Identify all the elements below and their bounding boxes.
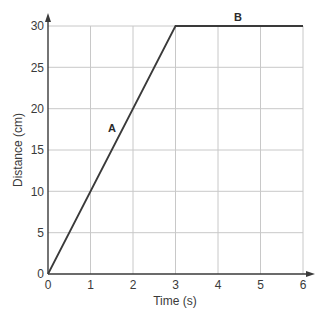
y-tick-label: 25: [31, 61, 45, 75]
y-tick-label: 0: [37, 267, 44, 281]
x-tick-label: 6: [300, 278, 307, 292]
x-tick-label: 0: [45, 278, 52, 292]
x-axis-arrow-icon: [306, 271, 315, 277]
y-tick-labels: 0 5 10 15 20 25 30: [31, 19, 45, 281]
y-axis-arrow-icon: [45, 13, 51, 22]
x-tick-label: 1: [87, 278, 94, 292]
y-axis-title: Distance (cm): [11, 113, 25, 187]
axes: [45, 13, 315, 277]
segment-label-a: A: [108, 122, 116, 134]
x-tick-label: 4: [215, 278, 222, 292]
y-tick-label: 30: [31, 19, 45, 33]
segment-label-b: B: [234, 11, 242, 23]
chart-svg: 0 1 2 3 4 5 6 0 5 10 15 20 25 30 Time (s…: [0, 0, 322, 313]
x-tick-label: 2: [130, 278, 137, 292]
distance-time-chart: 0 1 2 3 4 5 6 0 5 10 15 20 25 30 Time (s…: [0, 0, 322, 313]
grid: [48, 26, 303, 274]
x-tick-label: 5: [257, 278, 264, 292]
x-tick-labels: 0 1 2 3 4 5 6: [45, 278, 307, 292]
x-axis-title: Time (s): [153, 294, 197, 308]
y-tick-label: 20: [31, 102, 45, 116]
y-tick-label: 10: [31, 185, 45, 199]
y-tick-label: 15: [31, 143, 45, 157]
y-tick-label: 5: [37, 226, 44, 240]
x-tick-label: 3: [172, 278, 179, 292]
